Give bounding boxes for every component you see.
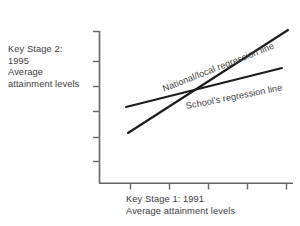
- chart-canvas: [0, 0, 300, 226]
- x-axis-title: Key Stage 1: 1991 Average attainment lev…: [126, 194, 235, 217]
- y-axis-ticks: [93, 32, 100, 162]
- regression-chart: Key Stage 2: 1995 Average attainment lev…: [0, 0, 300, 226]
- y-axis-title: Key Stage 2: 1995 Average attainment lev…: [8, 44, 79, 90]
